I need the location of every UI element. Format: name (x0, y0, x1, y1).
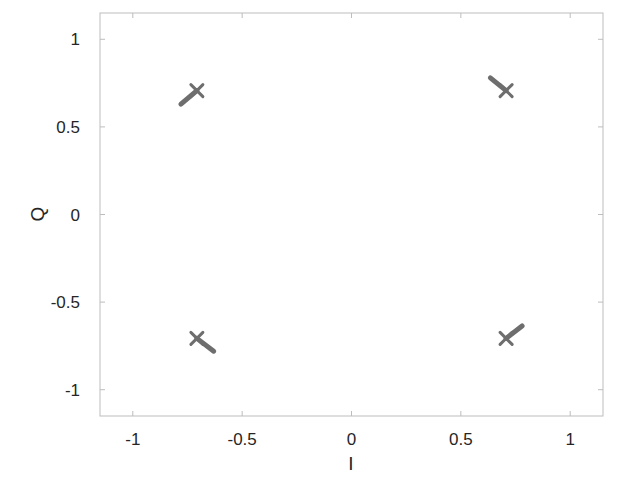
x-tick-label: 1 (565, 430, 574, 449)
y-tick-label: 0 (71, 206, 80, 225)
y-tick-label: -0.5 (51, 293, 80, 312)
x-tick-label: -1 (125, 430, 140, 449)
x-tick-label: 0 (347, 430, 356, 449)
y-tick-label: -1 (65, 381, 80, 400)
x-tick-label: 0.5 (449, 430, 473, 449)
y-axis-label: Q (27, 207, 48, 222)
x-tick-label: -0.5 (228, 430, 257, 449)
y-tick-label: 0.5 (56, 118, 80, 137)
plot-area (100, 13, 603, 416)
y-tick-label: 1 (71, 30, 80, 49)
constellation-chart: -1-0.500.51 -1-0.500.51 I Q (0, 0, 634, 489)
x-axis-label: I (348, 453, 353, 474)
